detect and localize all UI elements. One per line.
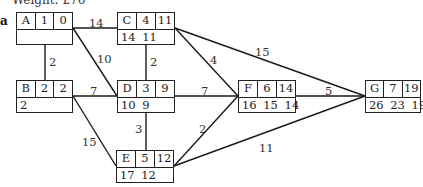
node-earliest: 14 — [276, 81, 295, 97]
node-g: G71926 23 19 — [365, 80, 421, 113]
node-latest-values: 2 — [17, 98, 72, 112]
edge-weight-c-g: 15 — [255, 45, 270, 59]
edge-weight-b-e: 15 — [82, 135, 97, 149]
node-f: F61416 15 14 — [238, 80, 296, 113]
node-earliest: 9 — [155, 81, 174, 97]
node-header: E512 — [117, 151, 173, 168]
edge-weight-a-d: 10 — [97, 52, 112, 66]
node-earliest: 0 — [53, 13, 72, 29]
node-header: D39 — [118, 81, 174, 98]
node-header: G719 — [366, 81, 420, 98]
node-id: G — [366, 81, 383, 97]
edge-weight-f-g: 5 — [325, 84, 332, 98]
node-latest-values: 10 9 — [118, 98, 174, 112]
edge-weight-a-b: 2 — [49, 55, 56, 69]
node-e: E51217 12 — [116, 150, 174, 183]
node-latest-values: 26 23 19 — [366, 98, 420, 112]
node-latest-values: 14 11 — [118, 30, 174, 44]
node-earliest: 12 — [154, 151, 173, 167]
network-diagram: Weight: £76 a 142102415715732511 A10B222… — [0, 0, 423, 187]
edge-weight-b-d: 7 — [90, 84, 97, 98]
node-latest-values — [17, 30, 72, 44]
node-id: A — [17, 13, 35, 29]
node-id: F — [239, 81, 257, 97]
node-duration: 3 — [136, 81, 155, 97]
node-earliest: 2 — [53, 81, 72, 97]
node-earliest: 11 — [155, 13, 174, 29]
node-duration: 4 — [136, 13, 155, 29]
node-id: C — [118, 13, 136, 29]
node-c: C41114 11 — [117, 12, 175, 45]
edge-b-e — [73, 96, 116, 166]
edge-weight-e-g: 11 — [259, 141, 274, 155]
node-header: C411 — [118, 13, 174, 30]
node-id: D — [118, 81, 136, 97]
node-duration: 7 — [383, 81, 401, 97]
node-id: B — [17, 81, 35, 97]
node-duration: 6 — [257, 81, 276, 97]
edge-weight-d-e: 3 — [135, 122, 142, 136]
edge-weight-c-f: 4 — [210, 53, 217, 67]
edge-weight-e-f: 2 — [199, 122, 206, 136]
node-id: E — [117, 151, 135, 167]
edge-weight-a-c: 14 — [89, 16, 104, 30]
node-b: B222 — [16, 80, 73, 113]
node-header: B22 — [17, 81, 72, 98]
node-header: A10 — [17, 13, 72, 30]
node-duration: 2 — [35, 81, 54, 97]
edge-weight-d-f: 7 — [201, 84, 208, 98]
node-latest-values: 17 12 — [117, 168, 173, 182]
weight-title: Weight: £76 — [12, 0, 85, 7]
node-duration: 5 — [135, 151, 154, 167]
part-label: a — [0, 14, 8, 28]
node-earliest: 19 — [402, 81, 420, 97]
node-duration: 1 — [35, 13, 54, 29]
node-d: D3910 9 — [117, 80, 175, 113]
node-latest-values: 16 15 14 — [239, 98, 295, 112]
node-a: A10 — [16, 12, 73, 45]
edge-weight-c-d: 2 — [150, 55, 157, 69]
node-header: F614 — [239, 81, 295, 98]
